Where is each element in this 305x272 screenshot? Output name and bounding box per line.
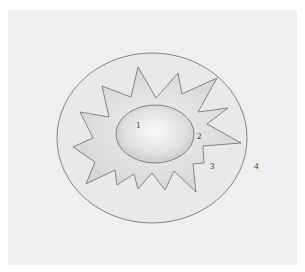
label-2: 2 xyxy=(197,131,202,141)
label-1: 1 xyxy=(136,120,141,130)
inner-ellipse xyxy=(116,105,194,163)
nested-regions-diagram: 1 2 3 4 xyxy=(0,0,305,272)
label-4: 4 xyxy=(254,161,259,171)
label-3: 3 xyxy=(210,161,215,171)
